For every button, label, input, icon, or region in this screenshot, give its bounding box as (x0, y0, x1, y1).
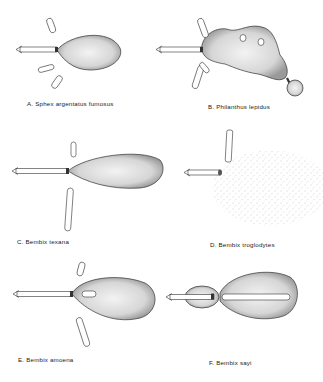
burrow-diagram-c (0, 130, 165, 250)
panel-c: C. Bembix texana (0, 130, 165, 250)
panel-d: D. Bembix troglodytes (160, 130, 323, 250)
burrow-diagram-d (160, 130, 323, 250)
panel-label-b: B. Philanthus lepidus (208, 103, 270, 110)
panel-e: E. Bembix amoena (0, 255, 160, 382)
panel-label-f: F. Bembix sayi (209, 359, 252, 366)
panel-label-a: A. Sphex argentatus fumosus (27, 100, 114, 107)
panel-label-d: D. Bembix troglodytes (210, 241, 275, 248)
panel-label-c: C. Bembix texana (17, 238, 69, 245)
panel-f: F. Bembix sayi (150, 255, 323, 382)
panel-b: B. Philanthus lepidus (150, 0, 323, 120)
burrow-diagram-b (150, 0, 323, 120)
panel-label-e: E. Bembix amoena (18, 356, 73, 363)
panel-a: A. Sphex argentatus fumosus (0, 0, 160, 120)
